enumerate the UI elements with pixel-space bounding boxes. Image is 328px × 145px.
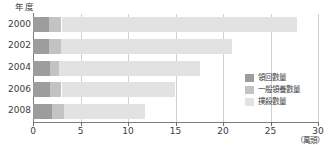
- legend-swatch: [245, 74, 254, 82]
- legend-label: 撲殺數量: [258, 98, 286, 106]
- y-tick-label: 2008: [2, 105, 31, 115]
- legend-item: 撲殺數量: [245, 96, 300, 107]
- legend-item: 領回數量: [245, 72, 300, 83]
- x-tick-mark: [176, 122, 177, 126]
- x-tick-label: 15: [170, 126, 181, 136]
- y-axis-tick-labels: 20002002200420062008: [0, 0, 31, 145]
- x-tick-label: 0: [30, 126, 36, 136]
- x-tick-mark: [81, 122, 82, 126]
- bar-segment: [33, 61, 50, 76]
- x-tick-label: 10: [122, 126, 133, 136]
- bar-segment: [64, 104, 145, 119]
- x-tick-label: 20: [217, 126, 228, 136]
- x-tick-mark: [33, 122, 34, 126]
- bar-segment: [50, 61, 59, 76]
- bar-segment: [52, 104, 64, 119]
- legend-label: 領回數量: [258, 74, 286, 82]
- x-tick-mark: [271, 122, 272, 126]
- x-axis-unit-label: （萬頭）: [296, 134, 324, 145]
- y-tick-label: 2004: [2, 62, 31, 72]
- bar-segment: [50, 82, 61, 97]
- bar-segment: [62, 82, 175, 97]
- legend-item: 一般領養數量: [245, 84, 300, 95]
- chart-legend: 領回數量一般領養數量撲殺數量: [245, 72, 300, 108]
- legend-label: 一般領養數量: [258, 86, 300, 94]
- bar-row: [33, 17, 318, 32]
- bar-segment: [59, 61, 201, 76]
- x-tick-label: 25: [265, 126, 276, 136]
- bar-segment: [49, 17, 61, 32]
- y-tick-label: 2006: [2, 84, 31, 94]
- y-tick-label: 2002: [2, 40, 31, 50]
- stacked-bar-chart: 年度 20002002200420062008 051015202530 （萬頭…: [0, 0, 328, 145]
- x-tick-mark: [223, 122, 224, 126]
- x-tick-mark: [128, 122, 129, 126]
- bar-segment: [49, 39, 60, 54]
- x-tick-mark: [318, 122, 319, 126]
- x-tick-label: 5: [78, 126, 84, 136]
- bar-row: [33, 39, 318, 54]
- y-tick-label: 2000: [2, 19, 31, 29]
- bar-segment: [62, 17, 298, 32]
- bar-segment: [33, 39, 49, 54]
- bar-segment: [33, 82, 50, 97]
- bar-segment: [33, 104, 52, 119]
- bar-segment: [33, 17, 49, 32]
- legend-swatch: [245, 98, 254, 106]
- gridline: [318, 14, 319, 122]
- bar-segment: [61, 39, 233, 54]
- legend-swatch: [245, 86, 254, 94]
